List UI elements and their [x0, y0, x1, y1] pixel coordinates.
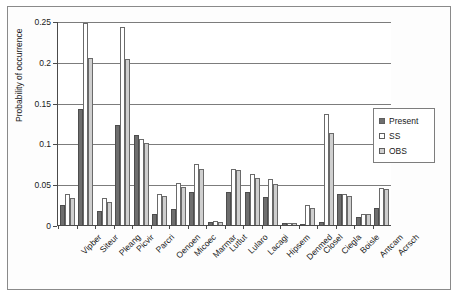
y-axis-label: Probability of occurrence — [14, 28, 24, 122]
bar-obs — [310, 208, 315, 225]
bar-group — [299, 22, 318, 225]
chart-figure: Probability of occurrence 00.050.10.150.… — [0, 0, 459, 298]
legend-item-obs: OBS — [379, 143, 430, 158]
bar-group — [336, 22, 355, 225]
y-tick-label: 0.05 — [34, 180, 51, 190]
bar-group — [280, 22, 299, 225]
bar-obs — [236, 170, 241, 225]
bar-group — [243, 22, 262, 225]
bar-obs — [273, 184, 278, 225]
bar-obs — [384, 189, 389, 225]
legend-label-ss: SS — [389, 131, 400, 141]
legend-item-ss: SS — [379, 128, 430, 143]
bar-groups — [58, 22, 391, 225]
bar-group — [58, 22, 77, 225]
x-axis-tick-labels: VipberSiteurPleangPicvirParcriOenoenMico… — [57, 228, 391, 290]
y-tick-label: 0.2 — [39, 58, 51, 68]
bar-group — [225, 22, 244, 225]
bar-group — [77, 22, 96, 225]
bar-group — [114, 22, 133, 225]
bar-obs — [218, 222, 223, 225]
legend-swatch-present-icon — [379, 118, 385, 124]
bar-group — [95, 22, 114, 225]
legend-swatch-ss-icon — [379, 133, 385, 139]
bar-obs — [366, 214, 371, 225]
bar-obs — [292, 223, 297, 225]
y-tick-label: 0.1 — [39, 139, 51, 149]
legend-item-present: Present — [379, 113, 430, 128]
bar-obs — [107, 202, 112, 225]
bar-group — [206, 22, 225, 225]
bar-obs — [255, 178, 260, 225]
y-tick-label: 0.15 — [34, 99, 51, 109]
bar-group — [262, 22, 281, 225]
y-tick-label: 0 — [46, 221, 51, 231]
bar-obs — [144, 143, 149, 225]
legend-swatch-obs-icon — [379, 148, 385, 154]
bar-group — [169, 22, 188, 225]
bar-group — [151, 22, 170, 225]
y-tick-label: 0.25 — [34, 17, 51, 27]
y-tick-mark — [53, 226, 57, 227]
legend-label-obs: OBS — [389, 146, 407, 156]
bar-obs — [199, 169, 204, 225]
bar-obs — [70, 198, 75, 225]
bar-obs — [347, 196, 352, 225]
x-tick-label: Lularo — [246, 232, 270, 256]
legend-label-present: Present — [389, 116, 418, 126]
bar-group — [354, 22, 373, 225]
bar-group — [132, 22, 151, 225]
bar-obs — [88, 58, 93, 225]
bar-group — [188, 22, 207, 225]
bar-obs — [181, 187, 186, 225]
bar-obs — [329, 133, 334, 225]
x-tick-label: Parcri — [153, 232, 176, 255]
bar-obs — [162, 196, 167, 225]
plot-area — [57, 22, 391, 226]
chart-legend: Present SS OBS — [373, 108, 435, 163]
bar-group — [317, 22, 336, 225]
bar-obs — [125, 59, 130, 225]
